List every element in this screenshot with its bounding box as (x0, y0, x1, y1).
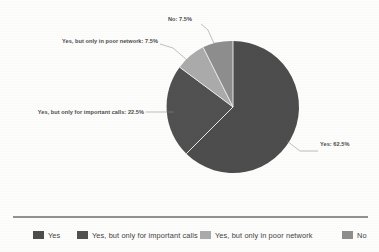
legend-item-important-calls[interactable]: Yes, but only for important calls (77, 231, 198, 240)
slice-label-important-calls: Yes, but only for important calls: 22.5% (38, 109, 144, 115)
slice-label-yes: Yes: 62.5% (320, 141, 349, 147)
legend-label-no: No (357, 231, 367, 240)
pie-chart-figure: Yes: 62.5% Yes, but only for important c… (0, 0, 379, 252)
legend-item-poor-network[interactable]: Yes, but only in poor network (200, 231, 313, 240)
legend-swatch-no (342, 231, 353, 239)
leader-line-yes (287, 141, 318, 151)
legend-swatch-poor-network (200, 231, 211, 239)
legend-label-yes: Yes (48, 231, 61, 240)
legend-label-poor-network: Yes, but only in poor network (215, 231, 313, 240)
legend-item-no[interactable]: No (342, 231, 367, 240)
slice-label-poor-network: Yes, but only in poor network: 7.5% (62, 38, 158, 44)
leader-line-poor-network (160, 44, 187, 60)
chart-canvas: Yes: 62.5% Yes, but only for important c… (0, 0, 379, 252)
slice-label-no: No: 7.5% (168, 16, 192, 22)
legend-swatch-important-calls (77, 231, 88, 239)
legend-swatch-yes (33, 231, 44, 239)
legend-item-yes[interactable]: Yes (33, 231, 61, 240)
legend: Yes Yes, but only for important calls Ye… (33, 231, 367, 240)
legend-label-important-calls: Yes, but only for important calls (92, 231, 198, 240)
